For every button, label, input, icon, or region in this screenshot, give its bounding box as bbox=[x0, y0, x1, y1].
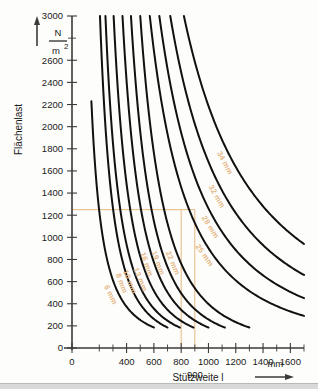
y-tick-label: 2600 bbox=[42, 55, 63, 66]
x-tick-label: 1200 bbox=[225, 356, 246, 367]
load-span-chart: 6 mm8 mm10 mm13 mm16 mm19 mm22 mm25 mm28… bbox=[0, 0, 318, 389]
y-tick-label: 2400 bbox=[42, 77, 63, 88]
y-unit-denominator: m bbox=[52, 45, 60, 56]
y-tick-label: 800 bbox=[47, 254, 63, 265]
y-unit-exponent: 2 bbox=[64, 42, 69, 51]
y-axis-title: Flächenlast bbox=[13, 104, 24, 155]
x-tick-label: 600 bbox=[146, 356, 162, 367]
page-footer-bar bbox=[0, 383, 318, 389]
y-tick-label: 3000 bbox=[42, 10, 63, 21]
x-tick-label: 0 bbox=[69, 356, 74, 367]
y-tick-label: 600 bbox=[47, 276, 63, 287]
y-tick-label: 200 bbox=[47, 320, 63, 331]
y-unit-numerator: N bbox=[55, 27, 62, 38]
y-tick-label: 2000 bbox=[42, 121, 63, 132]
x-tick-label: 400 bbox=[119, 356, 135, 367]
y-tick-label: 1200 bbox=[42, 210, 63, 221]
x-tick-label: 1000 bbox=[198, 356, 219, 367]
y-tick-label: 0 bbox=[58, 342, 63, 353]
y-tick-label: 1800 bbox=[42, 143, 63, 154]
y-tick-label: 400 bbox=[47, 298, 63, 309]
y-tick-label: 1400 bbox=[42, 187, 63, 198]
chart-svg: 6 mm8 mm10 mm13 mm16 mm19 mm22 mm25 mm28… bbox=[0, 0, 318, 389]
y-tick-label: 2200 bbox=[42, 99, 63, 110]
y-tick-label: 1000 bbox=[42, 232, 63, 243]
y-tick-label: 1600 bbox=[42, 165, 63, 176]
construction-span-label: 900 bbox=[187, 369, 203, 380]
x-unit-label: mm bbox=[267, 358, 283, 369]
x-tick-label: 800 bbox=[173, 356, 189, 367]
